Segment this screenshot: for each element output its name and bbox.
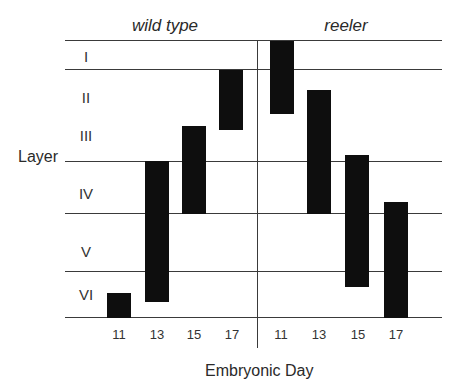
bar-reeler-e17 bbox=[384, 202, 408, 318]
y-axis-label: Layer bbox=[18, 148, 58, 166]
tick-reeler-15: 15 bbox=[351, 327, 365, 342]
tick-wild-type-11: 11 bbox=[112, 327, 126, 342]
bar-reeler-e13 bbox=[307, 90, 331, 214]
group-divider bbox=[257, 40, 258, 348]
group-title-wild-type: wild type bbox=[132, 16, 198, 36]
layer-boundary-III-IV bbox=[65, 161, 442, 162]
layer-label-V: V bbox=[81, 243, 91, 260]
tick-wild-type-13: 13 bbox=[150, 327, 164, 342]
layer-label-III: III bbox=[80, 127, 93, 144]
tick-wild-type-15: 15 bbox=[187, 327, 201, 342]
layer-label-II: II bbox=[82, 89, 90, 106]
tick-reeler-13: 13 bbox=[312, 327, 326, 342]
bar-wild-type-e11 bbox=[107, 293, 131, 318]
layer-label-IV: IV bbox=[79, 185, 93, 202]
bar-reeler-e11 bbox=[270, 41, 294, 114]
tick-reeler-17: 17 bbox=[389, 327, 403, 342]
layer-boundary-I-II bbox=[65, 69, 442, 70]
bar-reeler-e15 bbox=[345, 155, 369, 287]
tick-reeler-11: 11 bbox=[274, 327, 288, 342]
layer-label-VI: VI bbox=[79, 286, 93, 303]
tick-wild-type-17: 17 bbox=[225, 327, 239, 342]
group-title-reeler: reeler bbox=[324, 16, 367, 36]
x-axis-label: Embryonic Day bbox=[205, 362, 313, 380]
bar-wild-type-e15 bbox=[182, 126, 206, 214]
layer-label-I: I bbox=[84, 48, 88, 65]
chart: wild type reeler Layer I II III IV V VI … bbox=[0, 0, 457, 392]
bar-wild-type-e13 bbox=[145, 161, 169, 302]
layer-boundary-top bbox=[65, 40, 442, 41]
bar-wild-type-e17 bbox=[219, 70, 243, 130]
